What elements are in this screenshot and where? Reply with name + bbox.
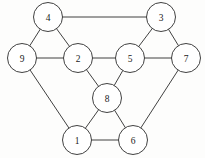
graph-node-7[interactable]: 7 xyxy=(172,44,201,73)
graph-node-3[interactable]: 3 xyxy=(147,3,176,32)
node-layer: 439257816 xyxy=(8,3,201,155)
graph-node-8[interactable]: 8 xyxy=(93,84,122,113)
graph-canvas: 439257816 xyxy=(0,0,205,158)
graph-node-label-5: 5 xyxy=(128,54,133,64)
graph-node-label-2: 2 xyxy=(76,54,81,64)
graph-diagram: 439257816 xyxy=(0,0,205,158)
graph-node-label-8: 8 xyxy=(105,94,110,104)
graph-node-5[interactable]: 5 xyxy=(116,44,145,73)
graph-node-1[interactable]: 1 xyxy=(63,126,92,155)
graph-node-2[interactable]: 2 xyxy=(64,44,93,73)
graph-edge-3-7 xyxy=(169,29,179,45)
graph-edge-8-6 xyxy=(115,110,126,127)
graph-node-6[interactable]: 6 xyxy=(119,126,148,155)
graph-node-label-4: 4 xyxy=(46,13,51,23)
graph-node-label-7: 7 xyxy=(184,54,189,64)
graph-edge-3-5 xyxy=(139,29,153,47)
graph-node-label-9: 9 xyxy=(20,54,25,64)
graph-node-4[interactable]: 4 xyxy=(34,3,63,32)
graph-edge-5-8 xyxy=(114,71,123,86)
graph-edge-4-2 xyxy=(57,29,70,47)
edge-layer xyxy=(30,17,179,140)
graph-edge-2-8 xyxy=(87,70,99,87)
graph-node-label-6: 6 xyxy=(131,136,136,146)
graph-node-label-3: 3 xyxy=(159,13,164,23)
graph-node-label-1: 1 xyxy=(75,136,80,146)
graph-edge-7-6 xyxy=(141,70,178,128)
graph-edge-9-1 xyxy=(30,70,69,128)
graph-edge-4-9 xyxy=(30,29,40,46)
graph-edge-8-1 xyxy=(85,110,98,128)
graph-node-9[interactable]: 9 xyxy=(8,44,37,73)
